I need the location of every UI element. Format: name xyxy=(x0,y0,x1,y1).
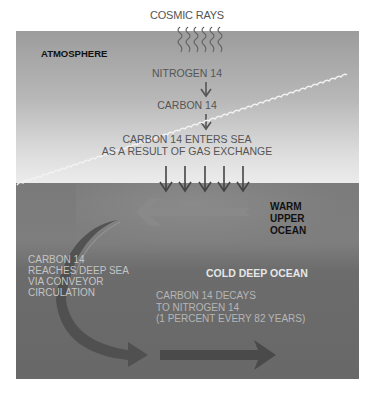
ocean-line: OCEAN xyxy=(270,225,306,237)
upper-line: UPPER xyxy=(270,213,306,225)
enters-sea-line-2: AS A RESULT OF GAS EXCHANGE xyxy=(0,145,374,157)
carbon-14-label: CARBON 14 xyxy=(0,100,374,111)
diagram-graphics xyxy=(0,0,374,394)
arrow-right-icon xyxy=(160,340,276,370)
deep-sea-label: CARBON 14 REACHES DEEP SEA VIA CONVEYOR … xyxy=(28,254,129,298)
decay-label: CARBON 14 DECAYS TO NITROGEN 14 (1 PERCE… xyxy=(156,290,305,325)
arrow-down-icon xyxy=(201,114,211,129)
cosmic-rays-label: COSMIC RAYS xyxy=(0,10,374,21)
decay-line-2: TO NITROGEN 14 xyxy=(156,302,305,314)
enters-sea-label: CARBON 14 ENTERS SEA AS A RESULT OF GAS … xyxy=(0,133,374,157)
wavy-rays-icon xyxy=(178,27,222,52)
arrow-left-icon xyxy=(136,198,250,226)
deep-sea-line-4: CIRCULATION xyxy=(28,287,129,298)
enters-sea-line-1: CARBON 14 ENTERS SEA xyxy=(0,133,374,145)
atmosphere-label: ATMOSPHERE xyxy=(41,49,107,59)
gas-exchange-arrows xyxy=(160,166,249,191)
warm-upper-ocean-label: WARM UPPER OCEAN xyxy=(270,201,306,237)
wave-icon xyxy=(17,74,347,185)
cold-deep-ocean-label: COLD DEEP OCEAN xyxy=(206,268,308,279)
decay-line-1: CARBON 14 DECAYS xyxy=(156,290,305,302)
arrow-down-icon xyxy=(201,82,211,96)
deep-sea-line-2: REACHES DEEP SEA xyxy=(28,265,129,276)
warm-line: WARM xyxy=(270,201,306,213)
deep-sea-line-1: CARBON 14 xyxy=(28,254,129,265)
nitrogen-14-label: NITROGEN 14 xyxy=(0,68,374,79)
decay-line-3: (1 PERCENT EVERY 82 YEARS) xyxy=(156,313,305,325)
deep-sea-line-3: VIA CONVEYOR xyxy=(28,276,129,287)
